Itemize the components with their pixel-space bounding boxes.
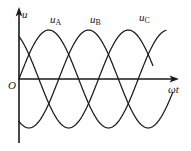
curve-label-ua: uA bbox=[50, 14, 61, 27]
x-axis-label: ωt bbox=[168, 84, 179, 95]
curve-label-ua-sub: A bbox=[56, 18, 62, 27]
curve-label-uc-sub: C bbox=[145, 16, 150, 25]
y-axis-label: u bbox=[22, 9, 28, 20]
waveform-figure: u uA uB uC O ωt bbox=[0, 0, 191, 151]
curve-label-ub: uB bbox=[90, 14, 101, 27]
y-axis bbox=[16, 7, 23, 143]
origin-label: O bbox=[8, 80, 16, 91]
curve-label-uc: uC bbox=[139, 12, 150, 25]
curve-label-ub-sub: B bbox=[96, 18, 101, 27]
